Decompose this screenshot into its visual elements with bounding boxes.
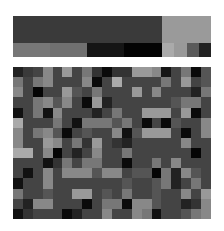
grid-cell: [181, 209, 191, 219]
grid-cell: [43, 148, 53, 158]
grid-cell: [82, 97, 92, 107]
grid-cell: [181, 67, 191, 77]
grid-cell: [152, 77, 162, 87]
grid-cell: [171, 199, 181, 209]
grid-cell: [72, 87, 82, 97]
grid-cell: [62, 209, 72, 219]
grid-cell: [82, 168, 92, 178]
grid-cell: [102, 118, 112, 128]
grid-cell: [102, 128, 112, 138]
grid-cell: [171, 97, 181, 107]
grid-cell: [53, 67, 63, 77]
grid-cell: [152, 118, 162, 128]
grid-cell: [53, 209, 63, 219]
grid-cell: [82, 138, 92, 148]
grid-cell: [43, 168, 53, 178]
grid-cell: [132, 189, 142, 199]
grid-cell: [181, 168, 191, 178]
grid-cell: [23, 128, 33, 138]
grid-cell: [132, 199, 142, 209]
grid-cell: [13, 128, 23, 138]
grid-cell: [13, 178, 23, 188]
grid-cell: [72, 199, 82, 209]
grid-cell: [92, 118, 102, 128]
grid-cell: [33, 168, 43, 178]
grid-cell: [142, 97, 152, 107]
grid-cell: [33, 118, 43, 128]
grid-cell: [23, 158, 33, 168]
grid-cell: [201, 87, 211, 97]
grid-cell: [102, 67, 112, 77]
grid-cell: [23, 148, 33, 158]
summary-segment-bottom-3: [124, 43, 162, 57]
grid-cell: [72, 168, 82, 178]
grid-cell: [161, 189, 171, 199]
grid-cell: [92, 128, 102, 138]
grid-cell: [201, 178, 211, 188]
grid-cell: [102, 148, 112, 158]
grid-cell: [13, 199, 23, 209]
grid-cell: [13, 138, 23, 148]
grid-cell: [13, 77, 23, 87]
grid-cell: [13, 209, 23, 219]
grid-cell: [171, 158, 181, 168]
grid-cell: [92, 148, 102, 158]
grid-cell: [13, 108, 23, 118]
grid-cell: [62, 158, 72, 168]
grid-cell: [82, 178, 92, 188]
grid-cell: [132, 87, 142, 97]
grid-cell: [132, 108, 142, 118]
grid-cell: [191, 209, 201, 219]
grid-cell: [122, 97, 132, 107]
grid-cell: [62, 148, 72, 158]
grid-cell: [152, 189, 162, 199]
grid-cell: [161, 199, 171, 209]
grid-cell: [53, 189, 63, 199]
grid-cell: [112, 87, 122, 97]
grid-cell: [23, 189, 33, 199]
grid-cell: [142, 168, 152, 178]
grid-cell: [43, 209, 53, 219]
grid-cell: [53, 199, 63, 209]
grid-cell: [62, 168, 72, 178]
grid-cell: [92, 199, 102, 209]
grid-cell: [23, 108, 33, 118]
grid-cell: [53, 148, 63, 158]
grid-cell: [43, 108, 53, 118]
grid-cell: [43, 178, 53, 188]
grid-cell: [72, 138, 82, 148]
grid-cell: [161, 148, 171, 158]
grid-cell: [201, 209, 211, 219]
grid-cell: [92, 178, 102, 188]
grid-cell: [102, 199, 112, 209]
grid-cell: [72, 118, 82, 128]
grid-cell: [152, 168, 162, 178]
grid-cell: [33, 138, 43, 148]
grid-cell: [142, 77, 152, 87]
grid-cell: [142, 189, 152, 199]
grid-cell: [181, 87, 191, 97]
grid-cell: [122, 138, 132, 148]
grid-cell: [181, 108, 191, 118]
grid-cell: [201, 118, 211, 128]
grid-cell: [132, 158, 142, 168]
grid-cell: [191, 138, 201, 148]
grid-cell: [92, 97, 102, 107]
grid-cell: [152, 148, 162, 158]
grid-cell: [191, 97, 201, 107]
grid-cell: [122, 77, 132, 87]
grid-cell: [132, 77, 142, 87]
grid-cell: [201, 77, 211, 87]
grid-cell: [152, 209, 162, 219]
grid-cell: [201, 168, 211, 178]
summary-bar-top-row: [13, 16, 211, 43]
grid-cell: [43, 138, 53, 148]
grid-cell: [132, 148, 142, 158]
grid-cell: [82, 108, 92, 118]
grid-cell: [142, 199, 152, 209]
grid-cell: [33, 97, 43, 107]
grid-cell: [53, 158, 63, 168]
grid-cell: [62, 118, 72, 128]
grid-cell: [112, 118, 122, 128]
grid-cell: [142, 67, 152, 77]
